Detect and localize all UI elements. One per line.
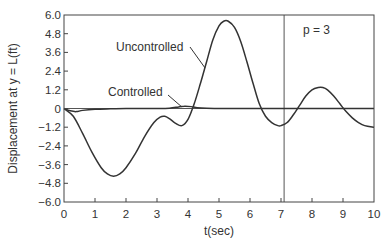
- y-tick-label: −1.2: [38, 121, 61, 133]
- annotation-arrow-uncontrolled: [190, 47, 205, 68]
- y-tick-label: 6.0: [45, 9, 61, 21]
- y-tick-label: 0: [55, 103, 61, 115]
- x-tick-label: 3: [154, 208, 160, 220]
- x-tick-label: 1: [92, 208, 98, 220]
- y-tick-label: 2.4: [45, 65, 62, 77]
- x-tick-label: 6: [247, 208, 253, 220]
- annotation-arrow-controlled: [168, 95, 182, 107]
- y-tick-label: 1.2: [45, 84, 61, 96]
- x-tick-label: 9: [340, 208, 346, 220]
- x-tick-label: 4: [185, 208, 192, 220]
- x-tick-label: 0: [61, 208, 67, 220]
- y-tick-label: −4.8: [38, 177, 61, 189]
- series-line-controlled: [64, 106, 374, 111]
- annotation-uncontrolled: Uncontrolled: [116, 40, 183, 54]
- x-axis-label: t(sec): [204, 224, 234, 238]
- y-axis-label: Displacement at y = L(ft): [6, 43, 20, 173]
- annotation-parameter-p: p = 3: [303, 23, 330, 37]
- y-tick-label: −6.0: [38, 196, 61, 208]
- y-tick-label: 3.6: [45, 46, 61, 58]
- x-tick-label: 7: [278, 208, 284, 220]
- y-tick-label: 4.8: [45, 28, 61, 40]
- x-tick-label: 5: [216, 208, 222, 220]
- y-tick-label: −2.4: [38, 140, 61, 152]
- annotation-controlled: Controlled: [108, 85, 163, 99]
- y-tick-label: −3.6: [38, 159, 61, 171]
- x-tick-label: 8: [309, 208, 315, 220]
- x-tick-label: 2: [123, 208, 129, 220]
- x-tick-label: 10: [368, 208, 381, 220]
- chart: 012345678910−6.0−4.8−3.6−2.4−1.201.22.43…: [0, 0, 389, 252]
